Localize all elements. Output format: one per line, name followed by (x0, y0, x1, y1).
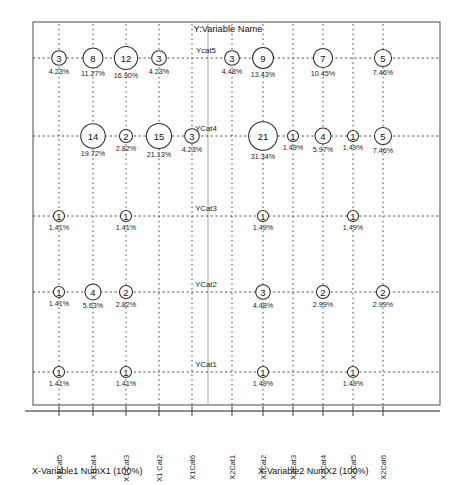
bubble-count-label: 1 (56, 367, 61, 378)
bubble-count-label: 4 (320, 131, 325, 142)
chart-canvas: YCat1YCat2YCat3YCat4Ycat5Y:Variable Name… (0, 0, 451, 485)
bubble-plot-chart: YCat1YCat2YCat3YCat4Ycat5Y:Variable Name… (0, 0, 451, 485)
data-point[interactable]: 11.49% (343, 210, 364, 231)
bubble-percent-label: 2.82% (116, 300, 137, 309)
bubble-count-label: 3 (56, 53, 61, 64)
bubble-percent-label: 7.46% (373, 146, 394, 155)
bubble-percent-label: 1.49% (343, 143, 364, 152)
data-point[interactable]: 11.49% (343, 130, 364, 151)
data-point[interactable]: 22.82% (116, 129, 137, 152)
data-point[interactable]: 57.46% (373, 49, 394, 76)
bubble-percent-label: 4.48% (253, 301, 274, 310)
data-point[interactable]: 11.41% (116, 366, 137, 387)
bubble-percent-label: 1.41% (49, 223, 70, 232)
bubble-percent-label: 5.63% (83, 301, 104, 310)
bubble-percent-label: 4.48% (222, 67, 243, 76)
data-point[interactable]: 22.82% (116, 285, 137, 308)
bubble-count-label: 3 (229, 53, 234, 64)
bubble-percent-label: 4.23% (149, 67, 170, 76)
data-point[interactable]: 1521.13% (146, 123, 171, 158)
bubble-percent-label: 16.90% (114, 71, 139, 80)
bubble-percent-label: 7.46% (373, 68, 394, 77)
bubble-count-label: 2 (380, 287, 385, 298)
bubble-percent-label: 1.41% (49, 299, 70, 308)
data-point[interactable]: 11.49% (343, 366, 364, 387)
data-point[interactable]: 11.41% (49, 210, 70, 231)
bubble-count-label: 1 (123, 367, 128, 378)
bubble-percent-label: 1.49% (253, 379, 274, 388)
bubble-percent-label: 1.49% (343, 223, 364, 232)
bubble-percent-label: 2.82% (116, 144, 137, 153)
x-variable1-axis-title: X-Variable1 NumX1 (100%) (32, 466, 142, 476)
bubble-percent-label: 1.49% (283, 143, 304, 152)
bubble-count-label: 14 (88, 131, 99, 142)
bubble-count-label: 15 (154, 131, 165, 142)
bubble-count-label: 3 (156, 53, 161, 64)
bubble-count-label: 1 (350, 211, 355, 222)
x-tick-label-X1Cat6: X1Cat6 (188, 455, 197, 480)
y-category-label-YCat1: YCat1 (195, 360, 217, 369)
bubble-percent-label: 5.97% (313, 145, 334, 154)
bubble-percent-label: 10.45% (311, 69, 336, 78)
data-point[interactable]: 11.41% (49, 286, 70, 307)
bubble-percent-label: 2.99% (373, 300, 394, 309)
bubble-count-label: 2 (123, 131, 128, 142)
bubble-count-label: 1 (290, 131, 295, 142)
bubble-count-label: 5 (380, 131, 385, 142)
bubble-count-label: 3 (260, 287, 265, 298)
data-point[interactable]: 811.27% (81, 48, 105, 78)
y-category-label-Ycat5: Ycat5 (196, 46, 217, 55)
bubble-percent-label: 31.34% (251, 152, 276, 161)
x-tick-label-X1Cat2: X1 Cat2 (155, 455, 164, 482)
bubble-count-label: 21 (258, 131, 269, 142)
data-point[interactable]: 913.43% (251, 48, 276, 79)
bubble-percent-label: 1.41% (49, 379, 70, 388)
data-point[interactable]: 1216.90% (114, 46, 139, 79)
bubble-count-label: 4 (90, 287, 95, 298)
bubble-count-label: 9 (260, 53, 265, 64)
bubble-percent-label: 11.27% (81, 69, 105, 78)
data-point[interactable]: 57.46% (373, 127, 394, 154)
bubble-count-label: 1 (350, 367, 355, 378)
bubble-percent-label: 21.13% (147, 150, 172, 159)
data-point[interactable]: 11.41% (116, 210, 137, 231)
bubble-percent-label: 19.72% (81, 149, 106, 158)
bubble-count-label: 5 (380, 53, 385, 64)
data-point[interactable]: 11.49% (283, 130, 304, 151)
y-category-label-YCat3: YCat3 (195, 204, 217, 213)
bubble-count-label: 1 (56, 211, 61, 222)
data-point[interactable]: 34.48% (222, 51, 243, 76)
data-point[interactable]: 2131.34% (249, 122, 278, 161)
bubble-count-label: 12 (121, 53, 132, 64)
bubble-count-label: 1 (350, 131, 355, 142)
data-point[interactable]: 22.99% (373, 285, 394, 308)
bubble-percent-label: 13.43% (251, 70, 276, 79)
data-point[interactable]: 34.23% (49, 51, 70, 76)
bubble-percent-label: 1.49% (253, 223, 274, 232)
data-point[interactable]: 1419.72% (81, 124, 106, 159)
data-point[interactable]: 11.41% (49, 366, 70, 387)
bubble-percent-label: 2.99% (313, 300, 334, 309)
y-category-label-YCat2: YCat2 (195, 280, 217, 289)
data-point[interactable]: 11.49% (253, 210, 274, 231)
bubble-percent-label: 4.23% (182, 145, 203, 154)
data-point[interactable]: 34.23% (149, 51, 170, 76)
data-point[interactable]: 11.49% (253, 366, 274, 387)
x-variable2-axis-title: X-Variable2 NumX2 (100%) (258, 466, 368, 476)
plot-area-frame (33, 22, 440, 405)
data-point[interactable]: 45.97% (313, 128, 334, 154)
bubble-percent-label: 4.23% (49, 67, 70, 76)
bubble-count-label: 8 (90, 53, 95, 64)
data-point[interactable]: 45.63% (83, 284, 104, 310)
bubble-percent-label: 1.41% (116, 223, 137, 232)
bubble-percent-label: 1.41% (116, 379, 137, 388)
data-point[interactable]: 34.48% (253, 285, 274, 310)
bubble-count-label: 1 (260, 211, 265, 222)
chart-title: Y:Variable Name (193, 24, 262, 34)
data-point[interactable]: 710.45% (311, 48, 336, 77)
bubble-count-label: 1 (56, 287, 61, 298)
data-point[interactable]: 22.99% (313, 285, 334, 308)
bubble-count-label: 2 (123, 287, 128, 298)
bubble-count-label: 2 (320, 287, 325, 298)
bubble-count-label: 7 (320, 53, 325, 64)
